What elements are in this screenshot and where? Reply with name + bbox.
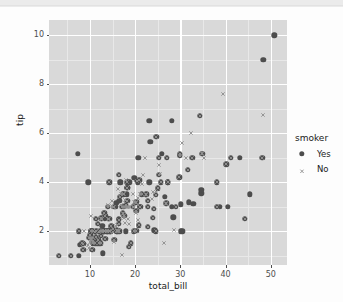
chart-figure: 2468101020304050 tip total_bill smoker Y… xyxy=(0,7,343,302)
x-tick-mark xyxy=(135,265,136,268)
data-point-no xyxy=(145,198,151,204)
data-point-no xyxy=(161,241,167,247)
strip-seam xyxy=(0,5,343,6)
data-point-no xyxy=(156,155,162,161)
data-point-no xyxy=(158,179,164,185)
y-tick-mark xyxy=(47,231,50,232)
data-point-no xyxy=(121,192,127,198)
data-point-yes xyxy=(136,155,141,160)
y-tick-mark xyxy=(47,182,50,183)
data-point-yes xyxy=(123,228,128,233)
data-point-yes xyxy=(272,32,277,37)
x-tick-mark xyxy=(271,265,272,268)
gridline-h-major xyxy=(49,133,287,134)
data-point-no xyxy=(90,238,96,244)
data-point-no xyxy=(190,155,196,161)
data-point-yes xyxy=(260,57,265,62)
data-point-no xyxy=(165,179,171,185)
gridline-v-minor xyxy=(248,20,249,265)
data-point-no xyxy=(151,206,157,212)
data-point-no xyxy=(134,208,140,214)
y-tick-label: 8 xyxy=(22,79,44,88)
gridline-h-minor xyxy=(49,207,287,208)
data-point-yes xyxy=(247,192,252,197)
y-axis-title: tip xyxy=(15,114,25,126)
x-tick-label: 30 xyxy=(168,270,192,279)
legend-items: YesNo xyxy=(295,146,343,176)
data-point-no xyxy=(116,172,122,178)
legend-item-no[interactable]: No xyxy=(295,161,343,176)
gridline-v-major xyxy=(226,20,227,265)
data-point-no xyxy=(155,186,161,192)
data-point-no xyxy=(136,223,142,229)
data-point-no xyxy=(177,174,183,180)
data-point-no xyxy=(214,179,220,185)
data-point-no xyxy=(220,92,226,98)
data-point-no xyxy=(228,155,234,161)
data-point-no xyxy=(124,185,130,191)
data-point-yes xyxy=(147,139,152,144)
data-point-no xyxy=(115,228,121,234)
data-point-no xyxy=(199,151,205,157)
data-point-no xyxy=(173,204,179,210)
y-tick-mark xyxy=(47,133,50,134)
data-point-no xyxy=(153,192,159,198)
data-point-no xyxy=(260,113,266,119)
data-point-yes xyxy=(225,204,230,209)
gridline-h-minor xyxy=(49,60,287,61)
data-point-yes xyxy=(171,215,176,220)
data-point-no xyxy=(89,247,95,253)
data-point-yes xyxy=(237,155,242,160)
data-point-no xyxy=(126,221,132,227)
data-point-no xyxy=(82,228,88,234)
data-point-no xyxy=(96,237,102,243)
data-point-no xyxy=(131,228,137,234)
data-point-no xyxy=(139,192,145,198)
data-point-no xyxy=(183,155,189,161)
data-point-no xyxy=(125,179,131,185)
data-point-no xyxy=(135,178,141,184)
data-point-no xyxy=(156,172,162,178)
data-point-no xyxy=(103,236,109,242)
gridline-v-major xyxy=(271,20,272,265)
data-point-no xyxy=(105,204,111,210)
x-tick-label: 50 xyxy=(259,270,283,279)
data-point-yes xyxy=(146,179,151,184)
x-tick-label: 40 xyxy=(214,270,238,279)
data-point-no xyxy=(153,228,159,234)
x-axis-title: total_bill xyxy=(0,281,336,291)
data-point-no xyxy=(116,221,122,227)
x-tick-label: 10 xyxy=(78,270,102,279)
data-point-no xyxy=(127,204,133,210)
y-tick-label: 10 xyxy=(22,30,44,39)
data-point-no xyxy=(76,228,82,234)
y-tick-mark xyxy=(47,84,50,85)
data-point-no xyxy=(145,224,151,230)
y-tick-label: 4 xyxy=(22,177,44,186)
data-point-no xyxy=(107,179,113,185)
data-point-no xyxy=(242,216,248,222)
data-point-no xyxy=(154,134,160,140)
data-point-no xyxy=(99,216,105,222)
y-tick-mark xyxy=(47,35,50,36)
data-point-no xyxy=(126,244,132,250)
plot-panel xyxy=(49,20,287,265)
data-point-no xyxy=(121,204,127,210)
x-tick-label: 20 xyxy=(123,270,147,279)
data-point-yes xyxy=(169,118,174,123)
x-tick-mark xyxy=(90,265,91,268)
x-tick-mark xyxy=(226,265,227,268)
legend-cross-icon xyxy=(295,162,308,175)
data-point-no xyxy=(164,155,170,161)
x-tick-mark xyxy=(180,265,181,268)
legend: smoker YesNo xyxy=(295,133,343,176)
gridline-h-major xyxy=(49,35,287,36)
data-point-no xyxy=(150,215,156,221)
data-point-no xyxy=(142,155,148,161)
data-point-no xyxy=(124,198,130,204)
data-point-no xyxy=(179,140,185,146)
data-point-no xyxy=(163,200,169,206)
data-point-no xyxy=(171,227,177,233)
data-point-no xyxy=(130,191,136,197)
y-tick-label: 6 xyxy=(22,128,44,137)
